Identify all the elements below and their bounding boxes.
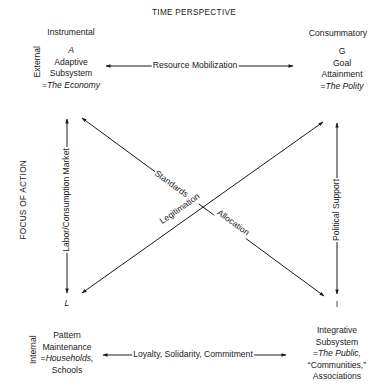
- quadrant-g-goal-attainment: G Goal Attainment =The Polity: [320, 46, 363, 92]
- quadrant-a-equivalent: =The Economy: [42, 80, 100, 92]
- quadrant-g-equivalent: =The Polity: [320, 81, 363, 93]
- quadrant-l-equivalent-value: Households,: [46, 353, 94, 363]
- resource-mobilization-label: Resource Mobilization: [152, 60, 239, 72]
- quadrant-g-equivalent-value: The Polity: [325, 81, 363, 91]
- quadrant-i-letter: I: [336, 299, 338, 311]
- internal-label: Internal: [28, 327, 40, 373]
- consummatory-label: Consummatory: [309, 28, 367, 40]
- quadrant-l-pattern-maintenance: Pattern Maintenance =Households, Schools: [41, 330, 94, 376]
- quadrant-i-line5: Associations: [308, 371, 366, 383]
- quadrant-l-line1: Pattern: [41, 330, 94, 342]
- quadrant-a-letter: A: [42, 45, 100, 57]
- political-support-label: Political Support: [331, 178, 343, 242]
- quadrant-g-line2: Attainment: [320, 69, 363, 81]
- quadrant-g-letter: G: [320, 46, 363, 58]
- time-perspective-title: TIME PERSPECTIVE: [152, 7, 236, 19]
- quadrant-i-line4: “Communities,”: [308, 360, 366, 372]
- quadrant-i-equivalent: =The Public,: [308, 348, 366, 360]
- legitimation-diagonal-arrow: [82, 122, 323, 293]
- quadrant-i-line2: Subsystem: [308, 337, 366, 349]
- quadrant-i-line1: Integrative: [308, 325, 366, 337]
- quadrant-i-integrative: Integrative Subsystem =The Public, “Comm…: [308, 325, 366, 383]
- quadrant-g-line1: Goal: [320, 58, 363, 70]
- focus-of-action-title: FOCUS OF ACTION: [18, 160, 30, 240]
- instrumental-label: Instrumental: [47, 27, 94, 39]
- labor-consumption-market-label: Labor/Consumption Market: [61, 147, 73, 253]
- loyalty-solidarity-label: Loyalty, Solidarity, Commitment: [132, 349, 254, 361]
- quadrant-l-line2: Maintenance: [41, 342, 94, 354]
- quadrant-a-line1: Adaptive: [42, 57, 100, 69]
- quadrant-a-line2: Subsystem: [42, 68, 100, 80]
- quadrant-a-adaptive: A Adaptive Subsystem =The Economy: [42, 45, 100, 91]
- quadrant-l-equivalent: =Households,: [41, 353, 94, 365]
- quadrant-l-line4: Schools: [41, 365, 94, 377]
- quadrant-l-letter: L: [65, 298, 70, 310]
- quadrant-a-equivalent-value: The Economy: [47, 80, 100, 90]
- quadrant-i-equivalent-value: The Public,: [318, 348, 361, 358]
